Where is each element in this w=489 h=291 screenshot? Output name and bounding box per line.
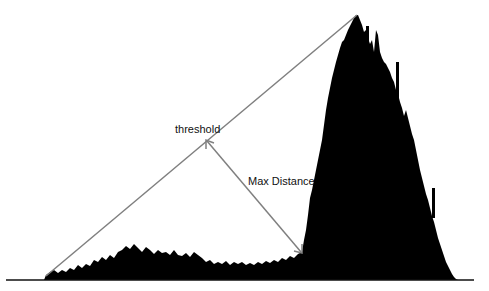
max-distance-label: Max Distance	[248, 176, 315, 187]
histogram-spike	[396, 62, 399, 102]
max-distance-arrow	[207, 141, 301, 252]
histogram-diagram	[0, 0, 489, 291]
histogram-spike	[366, 26, 369, 56]
histogram-spike	[432, 188, 435, 218]
histogram-shape	[44, 15, 458, 280]
threshold-label: threshold	[175, 124, 220, 135]
